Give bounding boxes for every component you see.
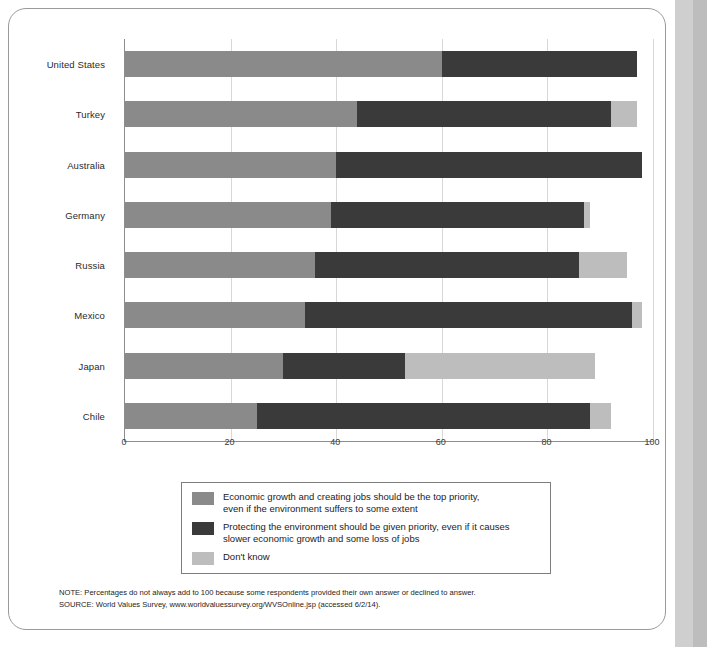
- bar-segment-environment[interactable]: [257, 403, 590, 429]
- bar-segment-environment[interactable]: [442, 51, 637, 77]
- x-axis-tick-label: 0: [121, 437, 126, 447]
- gridline-100: [653, 39, 654, 441]
- bar-segment-growth[interactable]: [125, 152, 336, 178]
- bar-segment-environment[interactable]: [283, 353, 404, 379]
- legend-label: Don't know: [223, 551, 270, 563]
- bar-row[interactable]: [125, 353, 653, 379]
- bar-segment-dontknow[interactable]: [584, 202, 589, 228]
- x-axis-tick-label: 60: [436, 437, 446, 447]
- category-label-chile: Chile: [83, 411, 105, 422]
- gridline-40: [336, 39, 337, 441]
- plot-area: [124, 39, 653, 442]
- category-label-japan: Japan: [79, 361, 105, 372]
- scan-right-edge-shadow: [693, 0, 707, 647]
- bar-row[interactable]: [125, 252, 653, 278]
- bar-segment-growth[interactable]: [125, 403, 257, 429]
- x-axis-tick-label: 20: [225, 437, 235, 447]
- category-label-united-states: United States: [47, 59, 105, 70]
- bar-segment-environment[interactable]: [315, 252, 579, 278]
- bar-segment-dontknow[interactable]: [579, 252, 627, 278]
- bar-segment-growth[interactable]: [125, 51, 442, 77]
- bar-segment-dontknow[interactable]: [632, 302, 643, 328]
- legend-item[interactable]: Don't know: [192, 551, 540, 565]
- figure-notes: NOTE: Percentages do not always add to 1…: [59, 587, 629, 611]
- chart-legend: Economic growth and creating jobs should…: [181, 482, 551, 574]
- category-label-germany: Germany: [65, 210, 105, 221]
- bar-segment-growth[interactable]: [125, 252, 315, 278]
- legend-swatch-environment: [192, 522, 214, 535]
- bar-row[interactable]: [125, 101, 653, 127]
- legend-item[interactable]: Protecting the environment should be giv…: [192, 521, 540, 544]
- bar-row[interactable]: [125, 302, 653, 328]
- bar-segment-environment[interactable]: [331, 202, 584, 228]
- bar-row[interactable]: [125, 152, 653, 178]
- bar-segment-environment[interactable]: [336, 152, 642, 178]
- bar-segment-growth[interactable]: [125, 101, 357, 127]
- bar-segment-growth[interactable]: [125, 353, 283, 379]
- bar-segment-environment[interactable]: [357, 101, 610, 127]
- bar-row[interactable]: [125, 51, 653, 77]
- category-label-mexico: Mexico: [74, 310, 105, 321]
- figure-card: 020406080100United StatesTurkeyAustralia…: [8, 8, 666, 630]
- category-label-australia: Australia: [67, 160, 105, 171]
- legend-label: Protecting the environment should be giv…: [223, 521, 510, 544]
- bar-segment-dontknow[interactable]: [405, 353, 595, 379]
- bar-segment-dontknow[interactable]: [590, 403, 611, 429]
- legend-swatch-dontknow: [192, 552, 214, 565]
- scan-right-margin: [675, 0, 707, 647]
- legend-swatch-growth: [192, 492, 214, 505]
- category-label-russia: Russia: [75, 260, 105, 271]
- bar-segment-environment[interactable]: [305, 302, 632, 328]
- x-axis-tick-label: 80: [541, 437, 551, 447]
- gridline-80: [547, 39, 548, 441]
- gridline-20: [231, 39, 232, 441]
- legend-label: Economic growth and creating jobs should…: [223, 491, 479, 514]
- x-axis-tick-label: 100: [644, 437, 659, 447]
- gridline-60: [442, 39, 443, 441]
- legend-item[interactable]: Economic growth and creating jobs should…: [192, 491, 540, 514]
- stacked-bar-chart: 020406080100United StatesTurkeyAustralia…: [23, 31, 653, 451]
- category-label-turkey: Turkey: [76, 109, 105, 120]
- x-axis-tick-label: 40: [330, 437, 340, 447]
- bar-row[interactable]: [125, 202, 653, 228]
- bar-row[interactable]: [125, 403, 653, 429]
- bar-segment-growth[interactable]: [125, 202, 331, 228]
- source-text: SOURCE: World Values Survey, www.worldva…: [59, 599, 629, 611]
- note-text: NOTE: Percentages do not always add to 1…: [59, 587, 629, 599]
- bar-segment-dontknow[interactable]: [611, 101, 637, 127]
- bar-segment-growth[interactable]: [125, 302, 305, 328]
